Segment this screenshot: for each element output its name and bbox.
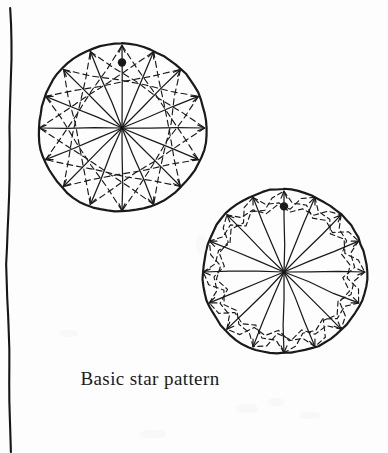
star-chord (227, 197, 315, 217)
star-chord (63, 160, 198, 187)
spoke (122, 128, 123, 211)
circle-figures-layer (39, 43, 367, 353)
star-chord (122, 45, 198, 159)
star-chord (253, 197, 341, 215)
star-chord (209, 215, 228, 303)
star-chord (284, 191, 359, 241)
spoke (284, 271, 365, 272)
star-chord (203, 197, 253, 272)
start-point-dot (118, 58, 126, 66)
figure-top-circle (39, 43, 207, 211)
spoke (46, 96, 122, 128)
spokes-top-circle (39, 45, 204, 210)
start-point-dot (280, 202, 288, 210)
star-chord (39, 128, 153, 204)
star-chord (46, 45, 122, 159)
star-chord (63, 69, 198, 96)
star-chord (154, 52, 181, 187)
spoke (284, 272, 315, 347)
figure-bottom-circle (203, 189, 368, 354)
spoke (284, 215, 341, 272)
spoke (284, 272, 341, 329)
spoke (203, 271, 284, 272)
star-chord (122, 96, 198, 210)
spoke (227, 215, 284, 272)
spoke (39, 128, 122, 129)
spoke (227, 272, 284, 329)
spoke (283, 272, 284, 353)
spoke (63, 69, 122, 128)
star-chord (90, 128, 204, 204)
spokes-bottom-circle (203, 191, 365, 353)
star-chord (90, 52, 204, 128)
figure-caption: Basic star pattern (0, 368, 300, 390)
star-chord (339, 215, 359, 303)
figure-page: Basic star pattern (0, 0, 388, 453)
